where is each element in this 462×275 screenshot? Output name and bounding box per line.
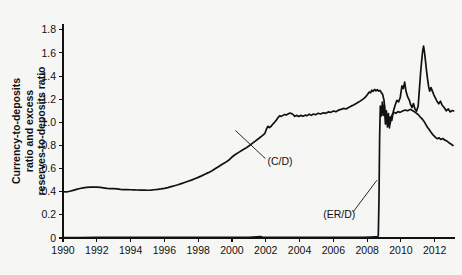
chart-background (0, 0, 462, 275)
y-tick-label: 0.8 (41, 139, 56, 151)
y-tick-label: 1.6 (41, 47, 56, 59)
y-axis-title-line: reserves-to-deposits ratio (35, 67, 47, 196)
y-tick-label: 1.2 (41, 93, 56, 105)
figure-container: Currency-to-depositsratio and excessrese… (0, 0, 462, 275)
x-tick-label: 2010 (389, 244, 413, 256)
x-tick-label: 1998 (186, 244, 210, 256)
x-tick-label: 1994 (119, 244, 143, 256)
x-tick-label: 1990 (51, 244, 75, 256)
x-tick-label: 2000 (220, 244, 244, 256)
x-tick-label: 1996 (153, 244, 177, 256)
y-axis-title-line: ratio and excess (23, 90, 35, 172)
y-tick-label: 0.2 (41, 208, 56, 220)
x-tick-label: 2002 (254, 244, 278, 256)
x-tick-label: 2012 (423, 244, 447, 256)
chart-canvas: Currency-to-depositsratio and excessrese… (0, 0, 462, 275)
x-tick-label: 1992 (85, 244, 109, 256)
y-tick-label: 1.4 (41, 70, 56, 82)
y-tick-label: 1.8 (41, 23, 56, 35)
y-tick-label: 0.4 (41, 185, 56, 197)
y-tick-label: 1.0 (41, 116, 56, 128)
y-tick-label: 0.6 (41, 162, 56, 174)
x-tick-label: 2004 (288, 244, 312, 256)
y-axis-title-line: Currency-to-deposits (10, 78, 22, 184)
y-tick-label: 0 (50, 232, 56, 244)
cd-label: (C/D) (267, 155, 292, 167)
erd-label: (ER/D) (323, 208, 355, 220)
x-tick-label: 2008 (355, 244, 379, 256)
x-tick-label: 2006 (322, 244, 346, 256)
